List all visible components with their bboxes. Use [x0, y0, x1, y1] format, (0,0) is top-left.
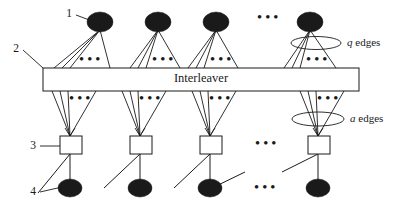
interleaver-graph-diagram: Interleaver • • •• • •• • •• • •• • •• •… — [0, 0, 406, 209]
check-node-group — [60, 136, 330, 154]
check-arrow-right-4 — [318, 128, 323, 136]
check-arrow-right-2 — [140, 128, 145, 136]
check-node-square-4[interactable] — [308, 136, 330, 154]
check-node-square-1[interactable] — [60, 136, 82, 154]
callout-1-text: 1 — [66, 7, 72, 19]
bottom-edge-3-1 — [192, 91, 210, 136]
top-fan-dots-2: • • • — [152, 51, 173, 66]
callout-4-text: 4 — [30, 185, 36, 197]
dlink-4 — [282, 154, 318, 172]
a-edges-text: a edges — [350, 112, 383, 124]
top-variable-node-3[interactable] — [203, 12, 229, 32]
top-fan-dots-4: • • • — [306, 51, 327, 66]
check-arrow-right-1 — [70, 128, 75, 136]
q-edges-text: q edges — [347, 36, 380, 48]
check-node-square-3[interactable] — [200, 136, 222, 154]
top-variable-node-2[interactable] — [145, 12, 171, 32]
bottom-variable-node-4[interactable] — [306, 179, 330, 197]
a-edges-lasso — [292, 112, 344, 126]
top-variable-node-1[interactable] — [87, 12, 113, 32]
bottom-fan-dots-4: • • • — [317, 90, 338, 105]
bottom-variable-node-3[interactable] — [198, 179, 222, 197]
a-edges-suffix: edges — [356, 112, 384, 124]
check-arrow-right-3 — [210, 128, 215, 136]
figure-root: Interleaver • • •• • •• • •• • •• • •• •… — [0, 0, 406, 209]
bottom-fan-dots-2: • • • — [139, 90, 160, 105]
interleaver-label: Interleaver — [174, 71, 229, 85]
top-edge-1-4 — [100, 30, 110, 68]
interleaver-group: Interleaver — [43, 68, 359, 91]
bottom-variable-node-2[interactable] — [128, 179, 152, 197]
bottom-variable-node-group — [58, 179, 330, 197]
top-variable-node-group — [87, 12, 323, 32]
callout-2-text: 2 — [13, 42, 19, 54]
top-fan-dots-3: • • • — [210, 51, 231, 66]
top-row-dots: • • • — [257, 9, 278, 24]
check-node-square-2[interactable] — [130, 136, 152, 154]
bottom-fan-dots-1: • • • — [69, 90, 90, 105]
bottom-edge-2-1 — [122, 91, 140, 136]
bottom-variable-node-1[interactable] — [58, 179, 82, 197]
bottom-fan-dots-3: • • • — [209, 90, 230, 105]
check-row-dots: • • • — [255, 135, 276, 150]
q-edges-suffix: edges — [353, 36, 381, 48]
callout-2-leader — [23, 50, 43, 68]
ellipsis-dots-group: • • •• • •• • •• • •• • •• • •• • •• • •… — [69, 9, 338, 194]
callout-3-text: 3 — [30, 139, 36, 151]
top-variable-node-4[interactable] — [297, 12, 323, 32]
bottom-row-dots: • • • — [254, 179, 275, 194]
top-fan-dots-1: • • • — [79, 51, 100, 66]
bottom-edge-1-1 — [52, 91, 70, 136]
